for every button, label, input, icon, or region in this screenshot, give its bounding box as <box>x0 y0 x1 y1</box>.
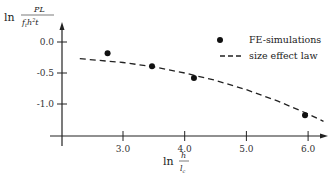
x-label-denominator: lc <box>180 164 186 174</box>
x-ticks: 3.04.05.06.0 <box>116 131 316 154</box>
x-label-numerator: h <box>181 151 186 160</box>
y-label-numerator: PL <box>33 5 45 14</box>
x-tick-label: 5.0 <box>239 144 254 154</box>
x-tick-label: 3.0 <box>116 144 131 154</box>
y-axis-arrow-icon <box>60 22 65 30</box>
x-tick-label: 6.0 <box>301 144 316 154</box>
data-point <box>191 75 197 81</box>
legend-marker-icon <box>217 37 223 43</box>
legend-item-fe-simulations: FE-simulations <box>249 34 321 45</box>
svg-text:ln: ln <box>4 11 15 24</box>
legend-item-size-effect-law: size effect law <box>249 50 318 61</box>
svg-text:ln: ln <box>163 155 174 168</box>
y-label-denominator: fth2t <box>21 17 39 28</box>
data-point <box>105 50 111 56</box>
data-point <box>149 63 155 69</box>
y-tick-label: 0.0 <box>40 37 55 47</box>
x-axis-label: ln h lc <box>163 151 189 174</box>
data-point <box>302 112 308 118</box>
y-axis-label: ln PL fth2t <box>4 5 54 28</box>
legend: FE-simulations size effect law <box>217 34 321 61</box>
size-effect-law-line <box>80 59 324 122</box>
y-tick-label: -0.5 <box>37 68 55 78</box>
chart: 0.0-0.5-1.0 3.04.05.06.0 ln PL fth2t ln … <box>0 0 336 185</box>
x-axis-arrow-icon <box>320 134 328 139</box>
y-tick-label: -1.0 <box>37 99 55 109</box>
